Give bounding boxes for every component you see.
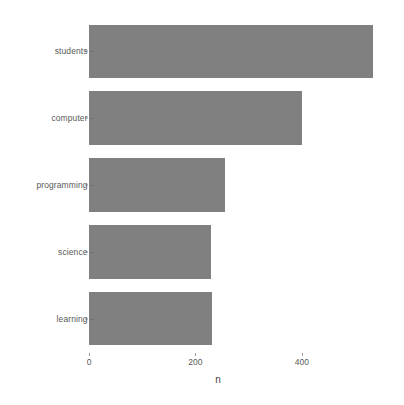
y-tick-label: learning - bbox=[57, 314, 93, 324]
plot-panel bbox=[89, 18, 378, 352]
x-tick-label: 200 bbox=[188, 357, 202, 367]
y-tick-label: programming - bbox=[36, 180, 93, 190]
bar bbox=[89, 25, 373, 79]
bar-row bbox=[89, 292, 378, 346]
x-axis-title: n bbox=[0, 374, 404, 385]
bar-row bbox=[89, 25, 378, 79]
bar-row bbox=[89, 91, 378, 145]
bar-row bbox=[89, 158, 378, 212]
x-tick-label: 0 bbox=[87, 357, 92, 367]
bar bbox=[89, 225, 211, 279]
bar-row bbox=[89, 225, 378, 279]
x-tick-mark bbox=[89, 353, 90, 356]
bar bbox=[89, 158, 225, 212]
x-tick-label: 400 bbox=[295, 357, 309, 367]
y-tick-label: students - bbox=[55, 46, 93, 56]
bar bbox=[89, 91, 302, 145]
x-tick-mark bbox=[302, 353, 303, 356]
x-axis-title-label: n bbox=[215, 374, 221, 385]
y-tick-label: computer - bbox=[51, 113, 93, 123]
x-tick-mark bbox=[195, 353, 196, 356]
bar-chart: students -computer -programming -science… bbox=[0, 0, 404, 405]
y-tick-label: science - bbox=[58, 247, 93, 257]
bar bbox=[89, 292, 212, 346]
